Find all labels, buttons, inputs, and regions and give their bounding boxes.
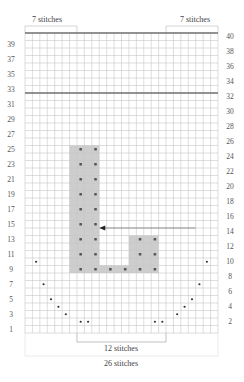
- purl-symbol: [79, 163, 82, 166]
- purl-symbol: [79, 238, 82, 241]
- row-number-right: 26: [226, 137, 234, 146]
- row-number-right: 24: [226, 152, 234, 161]
- purl-symbol: [139, 253, 142, 256]
- row-number-left: 13: [7, 235, 15, 244]
- purl-symbol: [79, 223, 82, 226]
- purl-symbol: [139, 238, 142, 241]
- purl-symbol: [154, 238, 157, 241]
- row-number-right: 16: [226, 212, 234, 221]
- knitting-chart: 1357911131517192123252729313335373924681…: [0, 0, 244, 382]
- row-number-right: 32: [226, 92, 234, 101]
- purl-symbol: [139, 268, 142, 271]
- row-number-left: 5: [9, 295, 13, 304]
- purl-symbol: [79, 148, 82, 151]
- top-left-stitch-count: 7 stitches: [32, 15, 62, 24]
- neckline-dot: [154, 321, 156, 323]
- purl-symbol: [94, 268, 97, 271]
- row-number-right: 12: [226, 242, 234, 251]
- row-number-left: 39: [7, 40, 15, 49]
- top-right-stitch-count: 7 stitches: [180, 15, 210, 24]
- neckline-dot: [42, 283, 44, 285]
- row-number-left: 35: [7, 70, 15, 79]
- row-number-left: 23: [7, 160, 15, 169]
- row-number-left: 3: [9, 310, 13, 319]
- row-number-left: 27: [7, 130, 15, 139]
- row-number-left: 21: [7, 175, 15, 184]
- purl-symbol: [94, 208, 97, 211]
- row-number-left: 9: [9, 265, 13, 274]
- row-number-left: 25: [7, 145, 15, 154]
- row-number-left: 19: [7, 190, 15, 199]
- purl-symbol: [154, 253, 157, 256]
- total-stitch-count: 26 stitches: [104, 359, 138, 368]
- purl-symbol: [154, 268, 157, 271]
- purl-symbol: [94, 193, 97, 196]
- purl-symbol: [94, 223, 97, 226]
- neckline-dot: [50, 298, 52, 300]
- row-number-left: 11: [7, 250, 14, 259]
- row-number-right: 6: [228, 287, 232, 296]
- purl-symbol: [94, 253, 97, 256]
- purl-symbol: [94, 178, 97, 181]
- row-number-right: 30: [226, 107, 234, 116]
- row-number-right: 40: [226, 32, 234, 41]
- row-number-left: 17: [7, 205, 15, 214]
- purl-symbol: [79, 268, 82, 271]
- purl-symbol: [94, 163, 97, 166]
- row-number-right: 18: [226, 197, 234, 206]
- neckline-dot: [176, 313, 178, 315]
- row-number-right: 8: [228, 272, 232, 281]
- neckline-dot: [198, 283, 200, 285]
- purl-symbol: [79, 253, 82, 256]
- purl-symbol: [94, 148, 97, 151]
- top-right-bracket: [166, 26, 218, 33]
- row-number-left: 31: [7, 100, 15, 109]
- row-number-right: 34: [226, 77, 234, 86]
- row-number-left: 37: [7, 55, 15, 64]
- chart-grid: [25, 33, 218, 333]
- row-number-right: 38: [226, 47, 234, 56]
- neckline-dot: [161, 321, 163, 323]
- neckline-dot: [191, 298, 193, 300]
- bottom-center-bracket: [77, 333, 166, 342]
- row-number-left: 29: [7, 115, 15, 124]
- row-number-right: 36: [226, 62, 234, 71]
- neckline-dot: [183, 306, 185, 308]
- neckline-dot: [35, 261, 37, 263]
- neckline-dot: [57, 306, 59, 308]
- row-number-right: 14: [226, 227, 234, 236]
- purl-symbol: [94, 238, 97, 241]
- row-number-right: 10: [226, 257, 234, 266]
- row-number-left: 1: [9, 325, 13, 334]
- purl-symbol: [109, 268, 112, 271]
- row-number-right: 28: [226, 122, 234, 131]
- row-number-left: 33: [7, 85, 15, 94]
- top-left-bracket: [25, 26, 77, 33]
- row-number-right: 20: [226, 182, 234, 191]
- purl-symbol: [79, 178, 82, 181]
- neckline-dot: [87, 321, 89, 323]
- purl-symbol: [79, 208, 82, 211]
- row-number-left: 7: [9, 280, 13, 289]
- purl-symbol: [124, 268, 127, 271]
- row-number-right: 22: [226, 167, 234, 176]
- row-number-left: 15: [7, 220, 15, 229]
- row-number-right: 4: [228, 302, 232, 311]
- neckline-dot: [80, 321, 82, 323]
- neckline-dot: [206, 261, 208, 263]
- neckline-dot: [65, 313, 67, 315]
- bottom-center-stitch-count: 12 stitches: [104, 344, 138, 353]
- row-number-right: 2: [228, 317, 232, 326]
- arrow-left-icon: [99, 225, 105, 230]
- purl-symbol: [79, 193, 82, 196]
